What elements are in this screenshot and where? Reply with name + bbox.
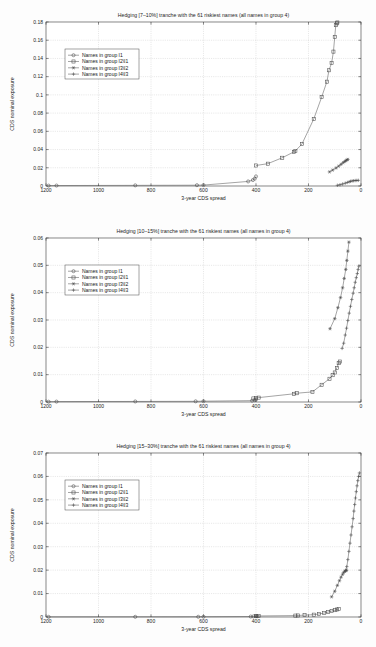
chart-svg-1: Hedging [10–15%] tranche with the 61 ris… xyxy=(0,216,376,432)
x-axis-label: 3-year CDS spread xyxy=(181,626,226,632)
chart-svg-2: Hedging [15–30%] tranche with the 61 ris… xyxy=(0,431,376,647)
y-tick-label: 0.05 xyxy=(33,497,43,503)
y-tick-label: 0.02 xyxy=(33,165,43,171)
y-axis-label: CDS nominal exposure xyxy=(9,77,15,130)
y-tick-label: 0.03 xyxy=(33,544,43,550)
y-tick-label: 0.14 xyxy=(33,55,43,61)
x-tick-label: 1000 xyxy=(93,403,104,409)
legend-label: Names in group I4\I3 xyxy=(82,71,128,77)
x-tick-label: 800 xyxy=(147,403,156,409)
y-tick-label: 0.01 xyxy=(33,591,43,597)
y-tick-label: 0.02 xyxy=(33,344,43,350)
y-tick-label: 0.06 xyxy=(33,473,43,479)
x-tick-label: 0 xyxy=(360,403,363,409)
y-tick-label: 0.06 xyxy=(33,128,43,134)
y-axis-label: CDS nominal exposure xyxy=(9,508,15,561)
x-tick-label: 1200 xyxy=(40,403,51,409)
y-tick-label: 0.04 xyxy=(33,289,43,295)
x-tick-label: 600 xyxy=(199,403,208,409)
legend-label: Names in group I3\I2 xyxy=(82,496,128,502)
legend: Names in group I1Names in group I2\I1Nam… xyxy=(65,49,139,79)
y-tick-label: 0.01 xyxy=(33,371,43,377)
legend-label: Names in group I2\I1 xyxy=(82,489,128,495)
x-tick-label: 0 xyxy=(360,187,363,193)
x-tick-label: 800 xyxy=(147,187,156,193)
x-tick-label: 1000 xyxy=(93,187,104,193)
x-tick-label: 400 xyxy=(252,403,261,409)
y-tick-label: 0.12 xyxy=(33,73,43,79)
legend-label: Names in group I3\I2 xyxy=(82,65,128,71)
y-tick-label: 0.05 xyxy=(33,262,43,268)
chart-panel-0: Hedging [7–10%] tranche with the 61 risk… xyxy=(0,0,376,216)
legend-label: Names in group I4\I3 xyxy=(82,286,128,292)
chart-title: Hedging [15–30%] tranche with the 61 ris… xyxy=(116,444,290,450)
x-axis-label: 3-year CDS spread xyxy=(181,411,226,417)
legend: Names in group I1Names in group I2\I1Nam… xyxy=(65,480,139,510)
y-tick-label: 0.07 xyxy=(33,450,43,456)
chart-panel-2: Hedging [15–30%] tranche with the 61 ris… xyxy=(0,431,376,647)
chart-title: Hedging [10–15%] tranche with the 61 ris… xyxy=(116,228,290,234)
x-tick-label: 600 xyxy=(199,619,208,625)
legend-label: Names in group I3\I2 xyxy=(82,280,128,286)
y-tick-label: 0.04 xyxy=(33,146,43,152)
y-tick-label: 0.04 xyxy=(33,520,43,526)
x-tick-label: 1000 xyxy=(93,619,104,625)
x-tick-label: 200 xyxy=(304,403,313,409)
y-tick-label: 0.06 xyxy=(33,234,43,240)
y-tick-label: 0.18 xyxy=(33,19,43,25)
figure-container: Hedging [7–10%] tranche with the 61 risk… xyxy=(0,0,376,647)
legend: Names in group I1Names in group I2\I1Nam… xyxy=(65,265,139,295)
y-tick-label: 0.02 xyxy=(33,567,43,573)
x-tick-label: 400 xyxy=(252,619,261,625)
x-tick-label: 1200 xyxy=(40,619,51,625)
legend-label: Names in group I2\I1 xyxy=(82,58,128,64)
x-tick-label: 0 xyxy=(360,619,363,625)
legend-label: Names in group I1 xyxy=(82,52,123,58)
y-tick-label: 0.1 xyxy=(36,92,43,98)
x-tick-label: 400 xyxy=(252,187,261,193)
y-tick-label: 0.08 xyxy=(33,110,43,116)
legend-label: Names in group I1 xyxy=(82,483,123,489)
legend-label: Names in group I4\I3 xyxy=(82,502,128,508)
legend-label: Names in group I1 xyxy=(82,268,123,274)
x-tick-label: 1200 xyxy=(40,187,51,193)
x-tick-label: 800 xyxy=(147,619,156,625)
x-axis-label: 3-year CDS spread xyxy=(181,195,226,201)
x-tick-label: 200 xyxy=(304,619,313,625)
legend-label: Names in group I2\I1 xyxy=(82,274,128,280)
chart-panel-1: Hedging [10–15%] tranche with the 61 ris… xyxy=(0,216,376,432)
y-tick-label: 0.03 xyxy=(33,316,43,322)
chart-svg-0: Hedging [7–10%] tranche with the 61 risk… xyxy=(0,0,376,216)
x-tick-label: 600 xyxy=(199,187,208,193)
y-tick-label: 0.16 xyxy=(33,37,43,43)
chart-title: Hedging [7–10%] tranche with the 61 risk… xyxy=(118,12,290,18)
y-axis-label: CDS nominal exposure xyxy=(9,293,15,346)
x-tick-label: 200 xyxy=(304,187,313,193)
